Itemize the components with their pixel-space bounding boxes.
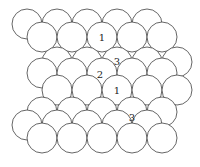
close-packing-diagram: 13213 [0, 0, 200, 167]
site-label: 1 [114, 85, 120, 96]
sphere-layers: 13213 [0, 0, 200, 167]
sphere [27, 123, 57, 153]
sphere [87, 123, 117, 153]
sphere [147, 123, 177, 153]
sphere [57, 123, 87, 153]
site-label: 1 [99, 32, 105, 43]
site-label: 3 [129, 112, 135, 123]
sphere [117, 123, 147, 153]
sphere-row [27, 123, 177, 153]
site-label: 3 [114, 56, 120, 67]
site-label: 2 [97, 69, 103, 80]
